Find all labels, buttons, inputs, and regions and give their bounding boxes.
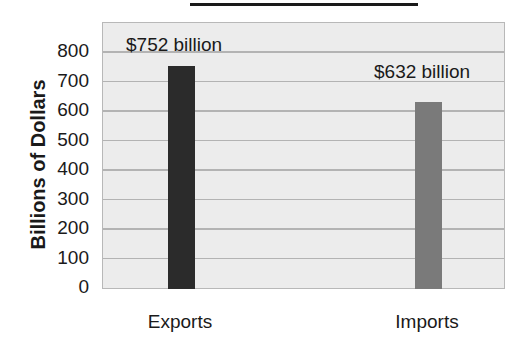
gridline [103,110,504,112]
x-tick-label-exports: Exports [120,311,240,333]
gridline [103,169,504,171]
y-tick-label: 300 [45,189,89,208]
y-tick-label: 500 [45,130,89,149]
x-tick-label-imports: Imports [367,311,487,333]
gridline [103,228,504,230]
data-label-exports: $752 billion [126,34,222,56]
gridline [103,258,504,260]
y-tick-label: 400 [45,159,89,178]
title-underline [190,3,418,6]
y-tick-label: 200 [45,218,89,237]
y-tick-label: 800 [45,41,89,60]
bar-exports [168,66,195,289]
gridline [103,199,504,201]
y-tick-label: 600 [45,100,89,119]
y-tick-label: 700 [45,71,89,90]
data-label-imports: $632 billion [374,61,470,83]
y-tick-label: 0 [45,277,89,296]
y-tick-label: 100 [45,248,89,267]
gridline [103,140,504,142]
bar-imports [415,102,442,289]
